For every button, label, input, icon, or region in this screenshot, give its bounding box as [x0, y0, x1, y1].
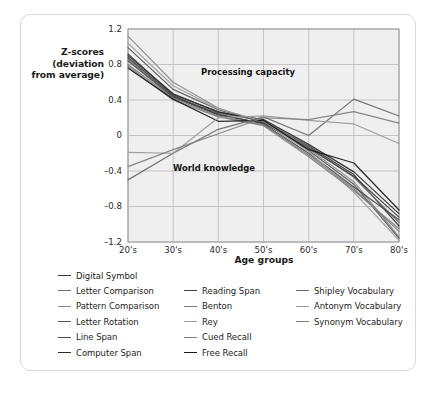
- x-axis-label: Age groups: [128, 254, 400, 265]
- legend-item-label: Reading Span: [202, 286, 260, 296]
- legend-line-swatch-icon: [58, 290, 71, 291]
- legend-item-label: Line Span: [76, 332, 117, 342]
- legend-item[interactable]: Synonym Vocabulary: [296, 314, 403, 329]
- legend-item-label: Antonym Vocabulary: [314, 301, 401, 311]
- legend-item-label: Synonym Vocabulary: [314, 317, 403, 327]
- legend-item[interactable]: Benton: [184, 299, 232, 314]
- legend-item-label: Free Recall: [202, 348, 248, 358]
- legend-line-swatch-icon: [58, 352, 71, 353]
- legend-item[interactable]: Letter Comparison: [58, 283, 154, 298]
- legend-line-swatch-icon: [58, 321, 71, 322]
- legend-item-label: Rey: [202, 317, 218, 327]
- legend-line-swatch-icon: [184, 321, 197, 322]
- legend-line-swatch-icon: [184, 290, 197, 291]
- y-axis-label-line-1: Z-scores: [26, 46, 104, 58]
- legend-line-swatch-icon: [296, 290, 309, 291]
- legend-item-label: Benton: [202, 301, 232, 311]
- legend-item-label: Digital Symbol: [76, 271, 137, 281]
- legend-item-label: Letter Comparison: [76, 286, 154, 296]
- legend-line-swatch-icon: [184, 306, 197, 307]
- y-tick-label: –0.4: [96, 166, 122, 176]
- y-tick-label: –0.8: [96, 201, 122, 211]
- legend-line-swatch-icon: [296, 306, 309, 307]
- legend-item-label: Cued Recall: [202, 332, 251, 342]
- y-tick-label: 0.8: [96, 59, 122, 69]
- x-tick-label: 30's: [153, 245, 193, 255]
- x-tick-label: 40's: [198, 245, 238, 255]
- legend-item-label: Computer Span: [76, 348, 142, 358]
- legend-item[interactable]: Free Recall: [184, 345, 248, 360]
- legend-item[interactable]: Digital Symbol: [58, 268, 137, 283]
- legend-item[interactable]: Letter Rotation: [58, 314, 139, 329]
- annotation-processing-capacity: Processing capacity: [201, 67, 295, 77]
- legend-item[interactable]: Shipley Vocabulary: [296, 283, 394, 298]
- x-tick-label: 60's: [289, 245, 329, 255]
- legend-line-swatch-icon: [296, 321, 309, 322]
- legend-item-label: Pattern Comparison: [76, 301, 159, 311]
- chart-legend: Digital SymbolLetter ComparisonPattern C…: [58, 268, 408, 356]
- legend-item[interactable]: Rey: [184, 314, 218, 329]
- legend-item-label: Letter Rotation: [76, 317, 139, 327]
- legend-line-swatch-icon: [58, 275, 71, 276]
- x-tick-label: 20's: [108, 245, 148, 255]
- legend-item-label: Shipley Vocabulary: [314, 286, 394, 296]
- y-tick-label: 1.2: [96, 24, 122, 34]
- legend-item[interactable]: Computer Span: [58, 345, 142, 360]
- y-axis-label-line-3: from average): [26, 69, 104, 81]
- y-tick-label: 0.4: [96, 95, 122, 105]
- x-tick-label: 80's: [379, 245, 419, 255]
- y-tick-label: 0: [96, 130, 122, 140]
- annotation-world-knowledge: World knowledge: [173, 163, 255, 173]
- legend-line-swatch-icon: [58, 337, 71, 338]
- chart-screenshot: Z-scores (deviation from average) Age gr…: [0, 0, 439, 393]
- legend-item[interactable]: Cued Recall: [184, 330, 251, 345]
- x-tick-label: 50's: [244, 245, 284, 255]
- legend-item[interactable]: Antonym Vocabulary: [296, 299, 401, 314]
- y-axis-label-line-2: (deviation: [26, 58, 104, 70]
- legend-item[interactable]: Reading Span: [184, 283, 260, 298]
- legend-line-swatch-icon: [58, 306, 71, 307]
- x-tick-label: 70's: [334, 245, 374, 255]
- legend-line-swatch-icon: [184, 337, 197, 338]
- y-axis-label: Z-scores (deviation from average): [26, 46, 104, 81]
- legend-item[interactable]: Pattern Comparison: [58, 299, 159, 314]
- legend-line-swatch-icon: [184, 352, 197, 353]
- legend-item[interactable]: Line Span: [58, 330, 117, 345]
